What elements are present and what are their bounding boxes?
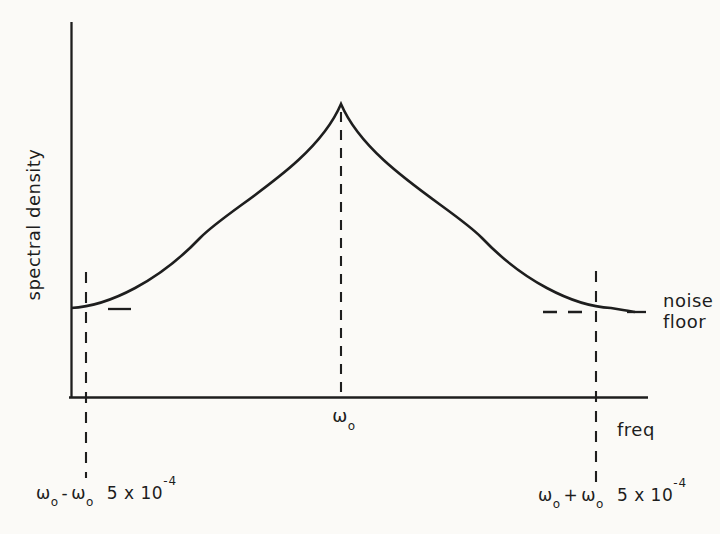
exponent-text: -4	[163, 474, 177, 488]
omega-symbol: ω	[332, 405, 348, 426]
omega-symbol: ω	[36, 483, 51, 503]
plus-operator: +	[564, 485, 579, 505]
x-tick-lower-limit: ωo-ωo5 x 10-4	[36, 483, 177, 504]
x-axis-label: freq	[617, 419, 655, 440]
omega-subscript: o	[86, 495, 94, 509]
omega-subscript: o	[51, 495, 59, 509]
coefficient-text: 5 x 10	[107, 483, 163, 503]
y-axis-label: spectral density	[23, 130, 44, 320]
spectral-density-figure: spectral density ωo freq noise floor ωo-…	[0, 0, 720, 534]
coefficient-text: 5 x 10	[617, 485, 673, 505]
omega-symbol: ω	[71, 483, 86, 503]
plot-canvas	[0, 0, 720, 534]
noise-floor-line1: noise	[663, 290, 713, 311]
noise-floor-line2: floor	[663, 311, 713, 332]
minus-operator: -	[62, 483, 69, 503]
spectral-density-curve	[71, 104, 635, 312]
omega-subscript: o	[348, 419, 356, 433]
noise-floor-annotation: noise floor	[663, 290, 713, 332]
omega-symbol: ω	[538, 485, 553, 505]
omega-subscript: o	[596, 497, 604, 511]
omega-symbol: ω	[581, 485, 596, 505]
x-tick-upper-limit: ωo+ωo5 x 10-4	[538, 485, 687, 506]
omega-subscript: o	[553, 497, 561, 511]
x-tick-omega0: ωo	[322, 405, 366, 426]
exponent-text: -4	[673, 476, 687, 490]
